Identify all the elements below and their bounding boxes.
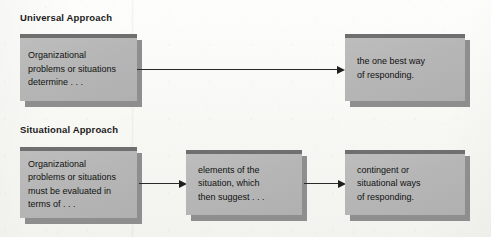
arrow-universal-cause-to-effect xyxy=(137,69,345,70)
node-label: the one best way of responding. xyxy=(345,34,465,101)
arrow-situational-cause-to-elements xyxy=(139,183,187,184)
node-label: Organizational problems or situations mu… xyxy=(20,147,137,218)
node-situational-response: contingent or situational ways of respon… xyxy=(345,150,465,215)
arrow-shaft xyxy=(304,183,339,184)
node-label: elements of the situation, which then su… xyxy=(186,150,302,215)
node-label: contingent or situational ways of respon… xyxy=(345,150,465,215)
node-universal-effect: the one best way of responding. xyxy=(345,34,465,101)
arrow-shaft xyxy=(137,69,338,70)
arrow-head-icon xyxy=(337,66,345,74)
node-situational-elements: elements of the situation, which then su… xyxy=(186,150,302,215)
diagram-figure: Universal Approach Organizational proble… xyxy=(0,0,491,237)
section-heading-universal: Universal Approach xyxy=(20,12,112,23)
node-label: Organizational problems or situations de… xyxy=(20,34,137,101)
section-heading-situational: Situational Approach xyxy=(20,124,118,135)
arrow-shaft xyxy=(139,183,180,184)
node-universal-cause: Organizational problems or situations de… xyxy=(20,34,137,101)
node-situational-cause: Organizational problems or situations mu… xyxy=(20,147,137,218)
arrow-elements-to-response xyxy=(304,183,346,184)
